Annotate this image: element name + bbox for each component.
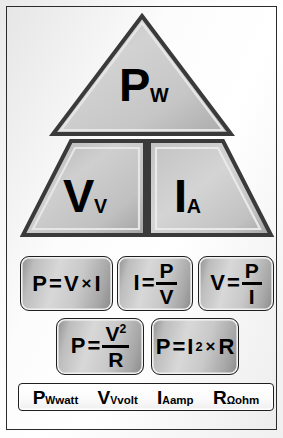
formula-operand-a: V (64, 273, 79, 295)
formula-current: I = P V (134, 260, 177, 306)
formula-equals: = (49, 273, 62, 295)
pyramid-label-voltage: VV (63, 172, 107, 219)
formula-operand-b: R (218, 336, 234, 358)
formula-lhs: V (210, 272, 225, 294)
symbol-v: V (63, 169, 94, 222)
formula-box-power-v-squared[interactable]: P = V2 R (56, 318, 144, 375)
pyramid-segment-current[interactable] (147, 139, 273, 237)
formula-lhs: I (134, 272, 140, 294)
legend-subscript: Ω (227, 395, 235, 406)
fraction-numerator: P (242, 260, 262, 282)
fraction: P I (242, 260, 262, 306)
formula-operand-b: I (95, 273, 101, 295)
fraction-denominator: R (105, 348, 126, 370)
subscript-w: W (150, 84, 168, 106)
legend-subscript: A (162, 395, 170, 406)
legend-subscript: V (110, 395, 117, 406)
fraction-denominator: V (156, 285, 176, 307)
legend-unit: ohm (235, 395, 259, 407)
formula-voltage: V= P I (210, 260, 262, 306)
legend-symbol: P (33, 388, 46, 407)
formula-lhs: P (156, 336, 171, 358)
formula-equals: = (142, 272, 155, 294)
formula-operand-a: I (187, 336, 193, 358)
formula-power-i-squared: P=I2×R (156, 336, 235, 358)
pyramid-label-power: PW (119, 61, 168, 108)
legend-subscript: W (45, 395, 55, 406)
formula-box-power[interactable]: P=V×I (20, 256, 113, 311)
formula-equals: = (172, 336, 185, 358)
numerator-exponent: 2 (119, 322, 126, 336)
formula-equals: = (88, 335, 101, 357)
symbol-i: I (174, 169, 187, 222)
numerator-base: V (105, 322, 119, 345)
legend-unit: amp (170, 395, 194, 407)
legend-symbol: R (213, 388, 227, 407)
legend-item-amp: IAamp (157, 388, 194, 407)
formula-power-v-squared: P = V2 R (71, 323, 129, 369)
fraction: V2 R (102, 323, 129, 369)
legend-symbol: V (98, 388, 111, 407)
formula-power: P=V×I (32, 273, 100, 295)
subscript-v: V (94, 195, 107, 217)
legend-unit: watt (55, 395, 78, 407)
legend-item-volt: VVvolt (98, 388, 138, 407)
formula-times: × (81, 275, 93, 292)
formula-lhs: P (71, 335, 86, 357)
formula-box-current[interactable]: I = P V (117, 256, 193, 311)
poster-frame: PW VV (6, 6, 277, 430)
legend-unit: volt (117, 395, 137, 407)
subscript-a: A (187, 195, 201, 217)
units-legend: PWwatt VVvolt IAamp RΩohm (18, 383, 274, 411)
fraction: P V (156, 260, 176, 306)
symbol-p: P (119, 58, 150, 111)
fraction-numerator: V2 (102, 323, 129, 345)
formula-lhs: P (32, 273, 47, 295)
legend-item-ohm: RΩohm (213, 388, 259, 407)
formula-box-voltage[interactable]: V= P I (198, 256, 274, 311)
formula-times: × (204, 338, 216, 355)
pyramid-label-current: IA (174, 172, 200, 219)
formula-box-power-i-squared[interactable]: P=I2×R (151, 318, 239, 375)
fraction-denominator: I (246, 285, 258, 307)
power-pyramid-diagram: PW VV (7, 9, 276, 237)
poster-root: PW VV (0, 0, 283, 438)
fraction-numerator: P (156, 260, 176, 282)
formula-equals: = (227, 272, 240, 294)
legend-item-watt: PWwatt (33, 388, 79, 407)
